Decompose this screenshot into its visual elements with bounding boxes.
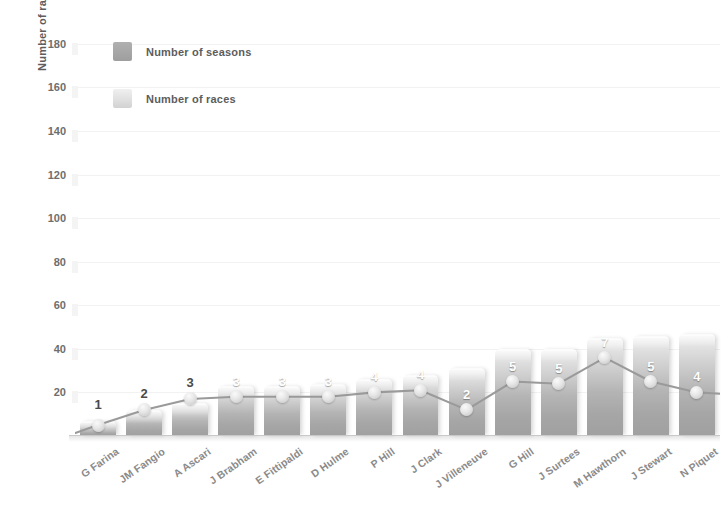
x-axis-label: J Brabham: [207, 445, 259, 486]
x-axis-label: P Hill: [369, 445, 398, 470]
bar: [264, 386, 300, 436]
y-tick-label: 160: [48, 81, 66, 93]
x-axis-label: A Ascari: [171, 445, 213, 479]
bar: [126, 410, 162, 436]
x-axis-label: D Hulme: [309, 445, 351, 480]
x-axis-label: J Stewart: [628, 445, 674, 482]
bar-fill: [218, 386, 254, 436]
legend-label: Number of races: [146, 93, 236, 105]
bar-fill: [679, 334, 715, 436]
x-axis-labels: G FarinaJM FangioA AscariJ BrabhamE Fitt…: [75, 441, 720, 513]
y-axis-title: Number of races: [36, 0, 48, 106]
bar-fill: [264, 386, 300, 436]
bar-fill: [541, 349, 577, 436]
x-axis-label: G Hill: [506, 445, 536, 471]
legend-item: Number of races: [113, 89, 251, 108]
bar-fill: [403, 375, 439, 436]
bar-fill: [356, 379, 392, 436]
legend-swatch: [113, 42, 132, 61]
bar-fill: [633, 336, 669, 436]
bar-fill: [310, 384, 346, 436]
y-tick-label: 100: [48, 212, 66, 224]
bar-fill: [126, 410, 162, 436]
bar: [449, 368, 485, 436]
bar: [495, 349, 531, 436]
bar: [403, 375, 439, 436]
x-axis-label: E Fittipaldi: [253, 445, 305, 486]
legend-item: Number of seasons: [113, 42, 251, 61]
x-axis-label: G Farina: [78, 445, 120, 480]
y-tick-label: 40: [54, 343, 66, 355]
chart-container: Number of races 20406080100120140160180 …: [0, 0, 728, 517]
bar: [633, 336, 669, 436]
y-tick-label: 140: [48, 125, 66, 137]
legend-label: Number of seasons: [146, 46, 251, 58]
y-tick-label: 80: [54, 256, 66, 268]
bar: [356, 379, 392, 436]
x-axis-label: N Piquet: [677, 445, 719, 480]
bar: [541, 349, 577, 436]
y-axis-title-wrapper: Number of races: [10, 20, 26, 180]
bar: [587, 338, 623, 436]
legend-swatch: [113, 89, 132, 108]
bar: [80, 421, 116, 436]
bar-fill: [495, 349, 531, 436]
y-tick-label: 20: [54, 386, 66, 398]
bar-fill: [80, 421, 116, 436]
y-tick-label: 180: [48, 38, 66, 50]
y-tick-label: 120: [48, 169, 66, 181]
bar: [310, 384, 346, 436]
bar: [679, 334, 715, 436]
bar-fill: [449, 368, 485, 436]
bar-fill: [587, 338, 623, 436]
x-axis-label: J Clark: [407, 445, 443, 475]
y-tick-label: 60: [54, 299, 66, 311]
x-axis-label: JM Fangio: [117, 445, 167, 485]
bar: [172, 403, 208, 436]
chart-legend: Number of seasonsNumber of races: [113, 42, 251, 136]
bar: [218, 386, 254, 436]
bar-fill: [172, 403, 208, 436]
